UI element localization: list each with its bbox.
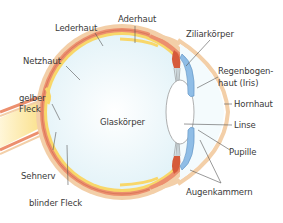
label-hornhaut: Hornhaut xyxy=(234,99,273,109)
label-augenkammern: Augenkammern xyxy=(186,187,253,197)
label-gelber-fleck-line2: Fleck xyxy=(19,104,41,114)
label-lederhaut: Lederhaut xyxy=(55,23,97,33)
label-linse: Linse xyxy=(234,120,256,130)
label-sehnerv: Sehnerv xyxy=(21,171,55,181)
label-pupille: Pupille xyxy=(229,147,256,157)
label-netzhaut: Netzhaut xyxy=(23,56,61,66)
label-aderhaut: Aderhaut xyxy=(118,14,156,24)
label-regenbogenhaut-line2: haut (Iris) xyxy=(218,78,258,88)
label-blinder-fleck: blinder Fleck xyxy=(29,198,82,208)
label-glaskoerper: Glaskörper xyxy=(100,117,145,127)
label-regenbogenhaut-line1: Regenbogen- xyxy=(218,66,273,76)
label-gelber-fleck-line1: gelber xyxy=(19,93,46,103)
eye-diagram: Aderhaut Lederhaut Netzhaut gelber Fleck… xyxy=(0,0,283,223)
label-ziliarkoerper: Ziliarkörper xyxy=(186,29,234,39)
